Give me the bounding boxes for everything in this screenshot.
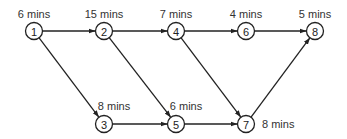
duration-label-node-1: 6 mins [18,8,51,20]
node-number: 3 [101,119,107,131]
duration-label-node-5: 6 mins [170,100,203,112]
node-number: 1 [31,26,37,38]
node-number: 7 [243,119,249,131]
node-3: 3 [96,116,113,133]
node-number: 5 [173,119,179,131]
nodes-group: 12345678 [26,23,324,133]
edge-7-to-8 [251,38,310,117]
duration-label-node-3: 8 mins [98,100,131,112]
duration-label-node-8: 5 mins [299,8,332,20]
network-diagram: 12345678 6 mins15 mins8 mins7 mins6 mins… [0,0,347,139]
node-number: 2 [101,26,107,38]
duration-label-node-4: 7 mins [160,8,193,20]
node-number: 4 [173,26,179,38]
node-4: 4 [168,23,185,40]
duration-label-node-2: 15 mins [85,8,124,20]
node-1: 1 [26,23,43,40]
node-5: 5 [168,116,185,133]
edge-1-to-3 [39,38,98,117]
node-8: 8 [307,23,324,40]
node-number: 6 [243,26,249,38]
node-7: 7 [238,116,255,133]
node-6: 6 [238,23,255,40]
node-number: 8 [312,26,318,38]
duration-label-node-6: 4 mins [230,8,263,20]
node-2: 2 [96,23,113,40]
duration-label-node-7: 8 mins [262,118,295,130]
